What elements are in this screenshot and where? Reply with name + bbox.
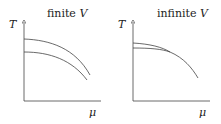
title-variable: V — [200, 7, 208, 20]
left-lower-curve — [24, 52, 87, 80]
left-panel-title: finite V — [47, 7, 87, 20]
left-panel-axes — [24, 22, 101, 101]
left-x-label: μ — [89, 106, 96, 119]
left-upper-curve — [24, 39, 90, 75]
title-variable: V — [79, 7, 87, 20]
right-x-label: μ — [199, 106, 206, 119]
right-y-label: T — [118, 18, 125, 31]
title-text: finite — [47, 7, 76, 20]
right-lower-curve — [133, 48, 170, 52]
right-panel-title: infinite V — [157, 7, 208, 20]
title-text: infinite — [157, 7, 196, 20]
right-panel-axes — [133, 22, 210, 101]
left-y-label: T — [9, 18, 16, 31]
